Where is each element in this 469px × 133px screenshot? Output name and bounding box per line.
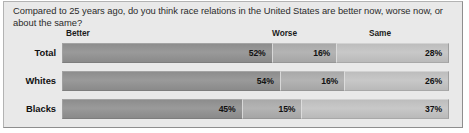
- bar-value-worse: 15%: [278, 104, 301, 114]
- bar-segment-worse: 16%: [272, 43, 336, 63]
- bar-value-better: 54%: [257, 76, 280, 86]
- bar-value-same: 28%: [425, 48, 448, 58]
- bar-value-worse: 16%: [321, 76, 344, 86]
- bar-segment-better: 45%: [62, 99, 242, 119]
- column-header-same: Same: [369, 28, 391, 38]
- bar-value-better: 52%: [249, 48, 272, 58]
- bar-value-worse: 16%: [313, 48, 336, 58]
- bar-value-same: 37%: [425, 104, 448, 114]
- bar-segment-worse: 16%: [280, 71, 344, 91]
- bar-segment-worse: 15%: [242, 99, 302, 119]
- table-row: Blacks 45% 15% 37%: [4, 99, 464, 119]
- bar-value-better: 45%: [219, 104, 242, 114]
- stacked-bar-whites: 54% 16% 26%: [62, 71, 449, 91]
- chart-title: Compared to 25 years ago, do you think r…: [13, 5, 457, 28]
- table-row: Whites 54% 16% 26%: [4, 71, 464, 91]
- bar-segment-same: 26%: [344, 71, 449, 91]
- stacked-bar-total: 52% 16% 28%: [62, 43, 449, 63]
- bar-segment-better: 54%: [62, 71, 280, 91]
- stacked-bar-blacks: 45% 15% 37%: [62, 99, 449, 119]
- bar-segment-better: 52%: [62, 43, 272, 63]
- bar-segment-same: 28%: [336, 43, 449, 63]
- row-label-total: Total: [4, 43, 56, 63]
- chart-panel: Compared to 25 years ago, do you think r…: [3, 1, 463, 128]
- table-row: Total 52% 16% 28%: [4, 43, 464, 63]
- column-header-row: Better Worse Same: [4, 28, 464, 40]
- column-header-better: Better: [66, 28, 90, 38]
- bar-segment-same: 37%: [301, 99, 449, 119]
- row-label-whites: Whites: [4, 71, 56, 91]
- row-label-blacks: Blacks: [4, 99, 56, 119]
- bar-value-same: 26%: [425, 76, 448, 86]
- bar-rows: Total 52% 16% 28% Whites 54% 16: [4, 43, 464, 127]
- column-header-worse: Worse: [272, 28, 297, 38]
